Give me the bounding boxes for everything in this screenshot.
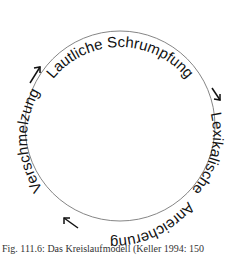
arrow-top-left-icon (30, 67, 40, 83)
figure-caption: Fig. 111.6: Das Kreislaufmodell (Keller … (2, 243, 204, 255)
stage-verschmelzung: Verschmelzung (13, 85, 46, 196)
arrow-top-right-icon (212, 88, 220, 100)
stage-lexikalische: Lexikalische (189, 111, 227, 199)
stage-lautliche-schrumpfung: Lautliche Schrumpfung (42, 33, 197, 81)
arrow-bottom-left-icon (64, 218, 78, 228)
cycle-diagram: Lautliche Schrumpfung Lexikalische Versc… (0, 0, 244, 255)
